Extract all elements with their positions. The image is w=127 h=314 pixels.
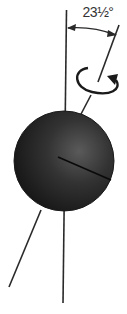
axial-tilt-diagram: [0, 0, 127, 314]
tilt-angle-label: 23½°: [78, 4, 118, 20]
tilted-axis-mid: [80, 95, 91, 116]
earth-sphere: [14, 111, 114, 211]
arc-arrowhead-left-icon: [67, 24, 76, 31]
tilted-axis-bottom: [9, 210, 41, 287]
